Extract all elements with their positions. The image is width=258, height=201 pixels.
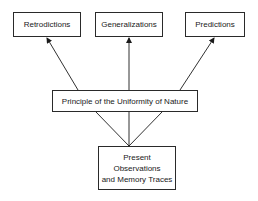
arrow-to-predictions — [180, 38, 214, 90]
node-retrodictions: Retrodictions — [13, 12, 81, 37]
node-label-line1: Present Observations — [99, 152, 175, 174]
node-label: Principle of the Uniformity of Nature — [62, 96, 188, 107]
line-right — [129, 112, 162, 146]
node-generalizations: Generalizations — [95, 12, 163, 37]
node-predictions: Predictions — [185, 12, 245, 37]
node-label: Generalizations — [101, 19, 157, 30]
arrow-to-retrodictions — [47, 38, 78, 90]
node-principle-uniformity: Principle of the Uniformity of Nature — [52, 90, 198, 112]
node-present-observations: Present Observations and Memory Traces — [98, 146, 176, 190]
node-label-line2: and Memory Traces — [102, 174, 173, 185]
node-label: Retrodictions — [24, 19, 71, 30]
line-left — [96, 112, 129, 146]
node-label: Predictions — [195, 19, 235, 30]
